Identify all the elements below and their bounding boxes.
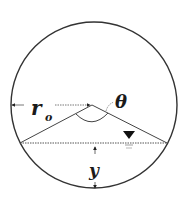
radius-label: r — [31, 96, 43, 120]
angle-leader — [106, 102, 114, 111]
depth-label: y — [88, 160, 100, 180]
angle-label: θ — [115, 91, 127, 112]
pipe-diagram: r o θ y — [0, 0, 187, 199]
angle-arc — [76, 113, 108, 122]
water-level-icon — [123, 131, 135, 148]
radius-subscript: o — [45, 111, 52, 124]
